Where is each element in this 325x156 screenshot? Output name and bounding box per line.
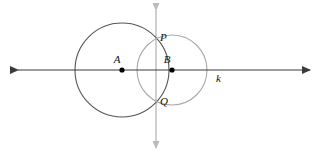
geometry-figure: A B P Q k <box>0 0 325 156</box>
label-line-k: k <box>216 72 222 84</box>
label-point-b: B <box>164 53 171 65</box>
label-point-a: A <box>113 53 121 65</box>
label-point-q: Q <box>160 95 168 107</box>
point-b-dot <box>169 67 174 72</box>
label-point-p: P <box>159 31 167 43</box>
diagram-canvas: A B P Q k <box>0 0 325 156</box>
point-a-dot <box>119 67 124 72</box>
